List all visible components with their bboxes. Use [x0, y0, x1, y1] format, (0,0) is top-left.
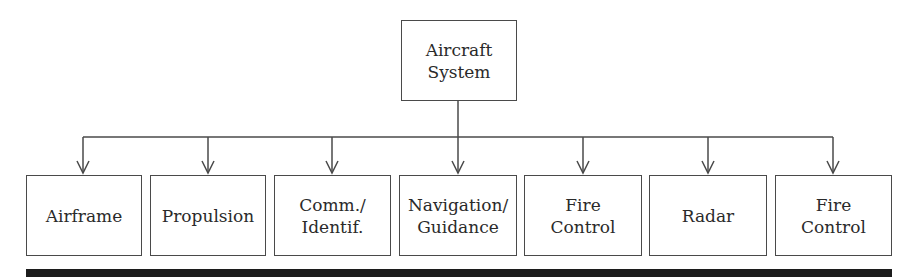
- root-node-aircraft-system: Aircraft System: [401, 20, 517, 101]
- node-comm-identif: Comm./ Identif.: [274, 175, 391, 256]
- node-fire-control-1: Fire Control: [524, 175, 642, 256]
- node-navigation-guidance: Navigation/ Guidance: [399, 175, 517, 256]
- node-propulsion: Propulsion: [150, 175, 266, 256]
- node-fire-control-2: Fire Control: [775, 175, 892, 256]
- caption-bar: [26, 269, 892, 277]
- node-airframe: Airframe: [26, 175, 142, 256]
- node-radar: Radar: [649, 175, 767, 256]
